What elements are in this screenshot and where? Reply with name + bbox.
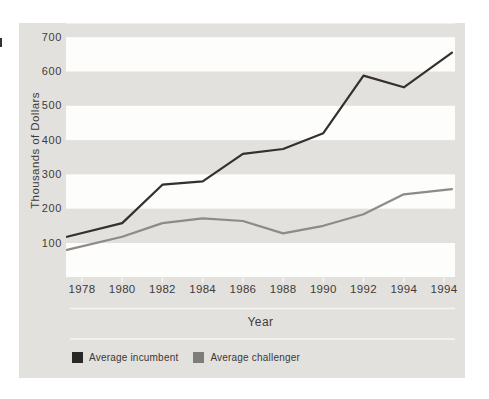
chart-canvas [0, 0, 489, 399]
x-axis-title: Year [200, 315, 321, 329]
x-tick-label: 1982 [142, 283, 182, 295]
x-tick-label: 1986 [223, 283, 263, 295]
x-tick-label: 1994 [424, 283, 464, 295]
y-tick-label: 300 [28, 168, 62, 180]
x-tick-label: 1992 [344, 283, 384, 295]
grid-band [66, 24, 455, 38]
x-tick-label: 1994 [384, 283, 424, 295]
y-tick-label: 200 [28, 202, 62, 214]
y-tick-label: 400 [28, 134, 62, 146]
legend-swatch-challenger-icon [193, 352, 204, 363]
legend-swatch-incumbent-icon [72, 352, 83, 363]
x-tick-label: 1984 [183, 283, 223, 295]
legend-label-incumbent: Average incumbent [89, 352, 178, 363]
x-tick-label: 1988 [263, 283, 303, 295]
x-tick-label: 1990 [303, 283, 343, 295]
grid-band [66, 140, 455, 174]
grid-band [66, 72, 455, 106]
chart-page: Thousands of Dollars 7006005004003002001… [0, 0, 489, 399]
legend: Average incumbent Average challenger [72, 350, 300, 364]
legend-label-challenger: Average challenger [210, 352, 300, 363]
y-tick-label: 700 [28, 31, 62, 43]
x-tick-label: 1978 [62, 283, 102, 295]
y-tick-label: 500 [28, 99, 62, 111]
y-tick-label: 100 [28, 237, 62, 249]
x-tick-label: 1980 [102, 283, 142, 295]
y-tick-label: 600 [28, 65, 62, 77]
